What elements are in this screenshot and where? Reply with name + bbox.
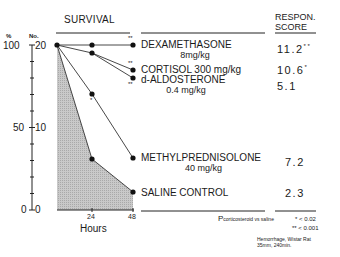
y-tick-100: 100 bbox=[3, 40, 20, 51]
legend-aldosterone: d-ALDOSTERONE 0.4 mg/kg bbox=[141, 75, 231, 95]
p-value-label: Pcorticosteroid vs saline bbox=[218, 214, 274, 223]
y-tick-20: 20 bbox=[35, 40, 46, 51]
x-tick-48: 48 bbox=[128, 213, 136, 220]
score-saline: 2.3 bbox=[285, 187, 305, 199]
svg-text:**: ** bbox=[128, 81, 133, 87]
legend-methylprednisolone: METHYLPREDNISOLONE 40 mg/kg bbox=[141, 153, 266, 173]
chart-title: SURVIVAL bbox=[64, 14, 115, 25]
score-aldosterone: 5.1 bbox=[277, 80, 297, 92]
svg-text:**: ** bbox=[128, 60, 133, 66]
svg-text:*: * bbox=[90, 97, 93, 103]
legend-saline: SALINE CONTROL bbox=[141, 188, 228, 198]
x-axis-label: Hours bbox=[80, 223, 107, 234]
y-tick-50: 50 bbox=[13, 122, 24, 133]
y-tick-0-no: 0 bbox=[35, 204, 41, 215]
p-value-2: ** < 0.001 bbox=[292, 225, 319, 231]
svg-text:**: ** bbox=[128, 35, 133, 41]
score-methylprednisolone: 7.2 bbox=[285, 156, 305, 168]
x-tick-24: 24 bbox=[87, 213, 95, 220]
score-header-line2: SCORE bbox=[275, 22, 316, 32]
score-cortisol: 10.6* bbox=[277, 64, 308, 76]
y-label-percent: % bbox=[6, 33, 11, 39]
y-tick-0-pct: 0 bbox=[21, 204, 27, 215]
legend-dexamethasone: DEXAMETHASONE 8mg/kg bbox=[141, 40, 249, 60]
score-header-line1: RESPON. bbox=[275, 12, 316, 22]
saline-shaded-area bbox=[57, 45, 133, 210]
series-aldosterone bbox=[92, 53, 133, 78]
p-value-1: * < 0.02 bbox=[295, 216, 316, 222]
score-dexamethasone: 11.2** bbox=[277, 43, 311, 55]
score-header: RESPON. SCORE bbox=[275, 12, 316, 32]
series-cortisol bbox=[57, 45, 133, 70]
y-label-number: No. bbox=[29, 33, 39, 39]
y-tick-10: 10 bbox=[35, 122, 46, 133]
method-note: Hemorrhage, Wistar Rat 35mm, 240min. bbox=[257, 236, 311, 248]
